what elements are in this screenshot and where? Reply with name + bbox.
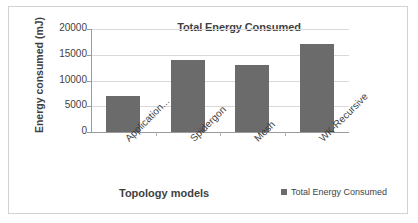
y-axis-tick	[87, 132, 91, 133]
y-axis-tick	[87, 81, 91, 82]
legend-swatch-icon	[281, 189, 287, 195]
y-axis-tick-label: 5000	[43, 99, 87, 110]
y-axis-tick	[87, 55, 91, 56]
y-axis-tick	[87, 29, 91, 30]
y-axis-tick-label: 10000	[43, 74, 87, 85]
y-axis-tick	[87, 106, 91, 107]
x-axis-title: Topology models	[119, 187, 209, 199]
bar	[300, 44, 334, 132]
bar	[171, 60, 205, 132]
gridline	[91, 29, 349, 30]
y-axis-tick-labels: 05000100001500020000	[39, 29, 87, 132]
y-axis-line	[91, 29, 92, 132]
legend-label: Total Energy Consumed	[291, 187, 387, 197]
y-axis-tick-label: 0	[43, 125, 87, 136]
chart-legend: Total Energy Consumed	[281, 187, 387, 197]
y-axis-tick-label: 15000	[43, 48, 87, 59]
y-axis-tick-label: 20000	[43, 22, 87, 33]
chart-frame: Total Energy Consumed Energy consumed (m…	[8, 6, 408, 214]
